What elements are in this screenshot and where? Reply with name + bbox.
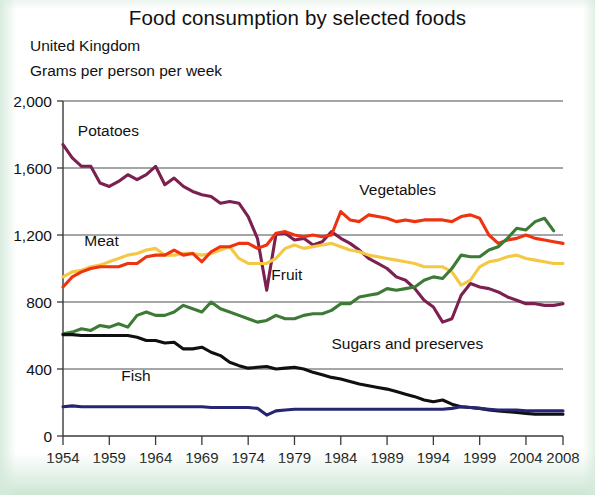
series-label-fruit: Fruit [271, 266, 303, 283]
y-tick-label: 800 [26, 294, 52, 311]
x-tick-label: 1969 [185, 449, 218, 466]
x-tick-label: 1964 [139, 449, 172, 466]
series-label-sugars-and-preserves: Sugars and preserves [332, 335, 484, 352]
series-label-meat: Meat [84, 232, 119, 249]
x-tick-label: 1994 [417, 449, 450, 466]
x-tick-label: 1974 [231, 449, 264, 466]
x-tick-label: 2004 [509, 449, 542, 466]
plot-area: 04008001,2001,6002,000 19541959196419691… [0, 0, 595, 495]
x-tick-label: 1984 [324, 449, 357, 466]
x-tick-label: 1959 [93, 449, 126, 466]
x-tick-label: 1954 [46, 449, 79, 466]
x-tick-label: 2008 [546, 449, 579, 466]
x-tick-label: 1999 [463, 449, 496, 466]
x-axis-tick-labels: 1954195919641969197419791984198919941999… [46, 449, 579, 466]
x-tick-label: 1989 [370, 449, 403, 466]
x-tick-marks [63, 436, 563, 445]
y-tick-label: 400 [26, 361, 52, 378]
y-axis-tick-labels: 04008001,2001,6002,000 [13, 93, 52, 445]
series-label-potatoes: Potatoes [78, 122, 139, 139]
figure: Food consumption by selected foods Unite… [0, 0, 595, 495]
line-chart-svg: 04008001,2001,6002,000 19541959196419691… [0, 0, 595, 495]
y-tick-label: 2,000 [13, 93, 52, 110]
y-tick-label: 1,600 [13, 160, 52, 177]
y-tick-label: 0 [43, 428, 52, 445]
series-line-fish [63, 406, 563, 415]
series-label-vegetables: Vegetables [359, 181, 436, 198]
x-tick-label: 1979 [278, 449, 311, 466]
y-tick-label: 1,200 [13, 227, 52, 244]
y-tick-marks [57, 101, 63, 436]
series-label-fish: Fish [121, 367, 150, 384]
